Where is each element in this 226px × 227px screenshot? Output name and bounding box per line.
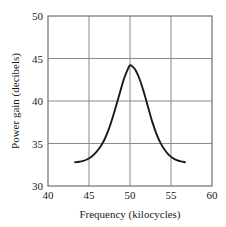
x-tick-label: 60 xyxy=(207,189,219,201)
y-tick-label: 35 xyxy=(32,138,44,150)
y-tick-label: 30 xyxy=(32,180,44,192)
y-tick-label: 40 xyxy=(32,95,44,107)
x-tick-label: 40 xyxy=(43,189,55,201)
power-gain-frequency-chart: 4045505560 3035404550 Frequency (kilocyc… xyxy=(0,0,226,227)
x-axis-title: Frequency (kilocycles) xyxy=(79,208,180,221)
x-tick-label: 45 xyxy=(84,189,96,201)
y-tick-label: 50 xyxy=(32,10,44,22)
y-axis-title: Power gain (decibels) xyxy=(9,53,22,149)
y-tick-label: 45 xyxy=(32,53,44,65)
x-tick-label: 55 xyxy=(166,189,178,201)
chart-figure: 4045505560 3035404550 Frequency (kilocyc… xyxy=(0,0,226,227)
x-tick-label: 50 xyxy=(125,189,137,201)
